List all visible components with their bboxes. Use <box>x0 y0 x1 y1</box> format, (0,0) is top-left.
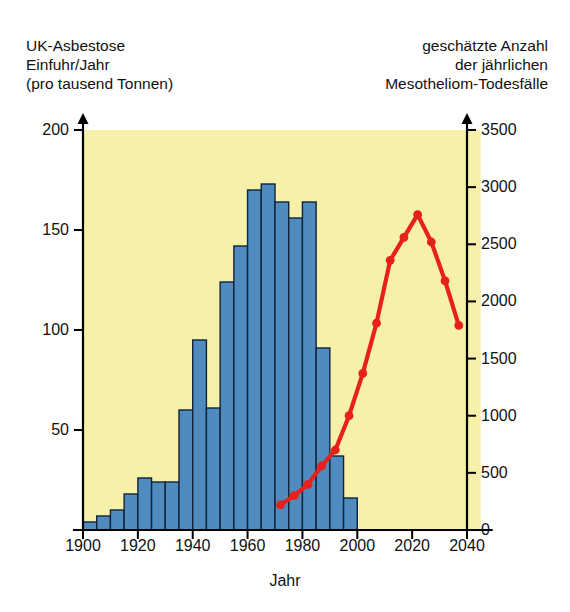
line-point-2022 <box>413 210 422 219</box>
bar-1965 <box>261 184 275 530</box>
bar-1990 <box>330 456 344 530</box>
x-tick-label-1900: 1900 <box>65 537 101 555</box>
bar-1970 <box>275 202 289 530</box>
bar-1940 <box>193 340 207 530</box>
y-tick-label-right-3500: 3500 <box>481 121 517 139</box>
line-point-1972 <box>276 500 285 509</box>
bar-1960 <box>248 190 262 530</box>
line-point-2012 <box>386 256 395 265</box>
line-point-2037 <box>454 321 463 330</box>
line-point-2002 <box>358 369 367 378</box>
bar-1925 <box>152 482 166 530</box>
chart-figure: UK-AsbestoseEinfuhr/Jahr(pro tausend Ton… <box>0 0 570 612</box>
line-point-2027 <box>427 238 436 247</box>
line-point-2017 <box>400 233 409 242</box>
bar-1910 <box>110 510 124 530</box>
bar-1985 <box>316 348 330 530</box>
bar-1905 <box>97 516 111 530</box>
bar-1995 <box>344 498 358 530</box>
bar-1955 <box>234 246 248 530</box>
line-point-1982 <box>304 480 313 489</box>
x-tick-label-1980: 1980 <box>285 537 321 555</box>
bar-1920 <box>138 478 152 530</box>
x-tick-label-1960: 1960 <box>230 537 266 555</box>
y-tick-label-left-100: 100 <box>42 321 69 339</box>
bar-1900 <box>83 522 97 530</box>
line-point-2007 <box>372 319 381 328</box>
y-tick-label-right-500: 500 <box>481 464 508 482</box>
y-tick-label-left-200: 200 <box>42 121 69 139</box>
y-tick-label-right-3000: 3000 <box>481 178 517 196</box>
y-tick-label-left-150: 150 <box>42 221 69 239</box>
x-axis-title: Jahr <box>0 572 570 590</box>
line-point-1977 <box>290 491 299 500</box>
bar-1935 <box>179 410 193 530</box>
line-point-2032 <box>441 276 450 285</box>
y-axis-right-arrow <box>462 113 473 124</box>
line-point-1992 <box>331 446 340 455</box>
bar-1915 <box>124 494 138 530</box>
y-tick-label-right-1000: 1000 <box>481 407 517 425</box>
line-point-1987 <box>317 462 326 471</box>
x-tick-label-2000: 2000 <box>339 537 375 555</box>
line-point-1997 <box>345 411 354 420</box>
x-tick-label-2020: 2020 <box>394 537 430 555</box>
y-tick-label-right-1500: 1500 <box>481 350 517 368</box>
bar-1975 <box>289 218 303 530</box>
y-tick-label-left-50: 50 <box>51 421 69 439</box>
y-axis-left-arrow <box>78 113 89 124</box>
x-tick-label-1920: 1920 <box>120 537 156 555</box>
y-tick-label-right-2000: 2000 <box>481 292 517 310</box>
bar-1930 <box>165 482 179 530</box>
x-tick-label-1940: 1940 <box>175 537 211 555</box>
y-tick-label-right-2500: 2500 <box>481 235 517 253</box>
bar-1950 <box>220 282 234 530</box>
x-tick-label-2040: 2040 <box>449 537 485 555</box>
bar-1945 <box>206 408 220 530</box>
